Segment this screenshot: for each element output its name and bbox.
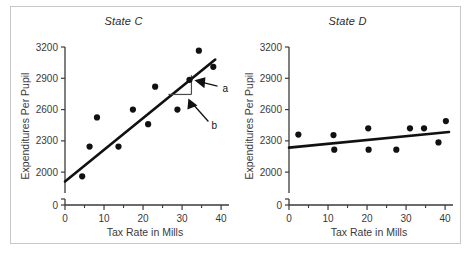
x-tick-label: 0 [286,213,292,224]
x-tick-label: 10 [98,213,110,224]
scatter-plot-state-c: 200023002600290032000010203040Tax Rate i… [11,7,236,243]
x-tick-label: 20 [361,213,373,224]
data-point [79,173,85,179]
x-tick-label: 20 [137,213,149,224]
data-point [393,147,399,153]
data-point [421,125,427,131]
y-tick-label: 3200 [260,42,283,53]
y-tick-label: 2600 [36,104,59,115]
x-axis-title: Tax Rate in Mills [331,226,407,238]
chart-panel-state-c: State C 200023002600290032000010203040Ta… [11,7,236,243]
y-origin-label: 0 [276,200,282,211]
y-origin-label: 0 [52,200,58,211]
x-tick-label: 30 [401,213,413,224]
scatter-plot-state-d: 200023002600290032000010203040Tax Rate i… [235,7,460,243]
trend-line [65,60,215,182]
data-point [365,125,371,131]
data-point [94,114,100,120]
y-tick-label: 2600 [260,104,283,115]
data-point [115,143,121,149]
data-point [366,147,372,153]
data-point [435,139,441,145]
x-tick-label: 40 [216,213,228,224]
y-axis-title: Expenditures Per Pupil [243,73,255,180]
y-tick-label: 3200 [36,42,59,53]
y-tick-label: 2900 [260,73,283,84]
data-point [174,106,180,112]
x-tick-label: 40 [440,213,452,224]
y-tick-label: 2300 [260,135,283,146]
x-tick-label: 30 [177,213,189,224]
y-axis-title: Expenditures Per Pupil [19,73,31,180]
x-tick-label: 0 [62,213,68,224]
data-point [130,106,136,112]
data-point [295,132,301,138]
y-tick-label: 2000 [36,167,59,178]
data-point [331,147,337,153]
y-tick-label: 2900 [36,73,59,84]
figure-frame: State C 200023002600290032000010203040Ta… [10,6,461,244]
chart-panel-state-d: State D 200023002600290032000010203040Ta… [235,7,460,243]
y-tick-label: 2000 [260,167,283,178]
x-tick-label: 10 [322,213,334,224]
y-tick-label: 2300 [36,135,59,146]
data-point [210,64,216,70]
data-point [145,121,151,127]
annotation-arrow-a-head [194,77,205,88]
annotation-label-a: a [222,83,228,94]
data-point [443,118,449,124]
x-axis-title: Tax Rate in Mills [107,226,183,238]
data-point [86,143,92,149]
data-point [330,132,336,138]
trend-line [289,132,449,148]
data-point [196,48,202,54]
data-point [186,77,192,83]
data-point [407,125,413,131]
annotation-label-b: b [211,120,217,131]
data-point [152,84,158,90]
